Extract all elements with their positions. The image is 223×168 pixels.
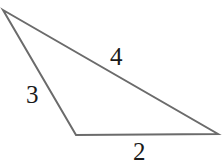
side-label-bottom: 2 (133, 139, 146, 164)
side-label-left: 3 (26, 82, 39, 107)
side-label-top: 4 (110, 44, 123, 69)
triangle-figure: 4 3 2 (0, 0, 223, 168)
triangle-outline (3, 10, 218, 135)
